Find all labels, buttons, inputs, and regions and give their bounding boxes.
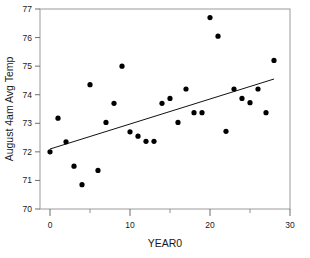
plot-canvas: 0102030 7071727374757677 YEAR0 August 4a… xyxy=(0,0,310,258)
data-point xyxy=(79,182,84,187)
x-axis-title: YEAR0 xyxy=(148,237,183,249)
data-point xyxy=(239,96,244,101)
data-point xyxy=(175,120,180,125)
y-axis-title: August 4am Avg Temp xyxy=(3,57,15,162)
scatter-plot-figure: 0102030 7071727374757677 YEAR0 August 4a… xyxy=(0,0,310,258)
y-axis-ticks xyxy=(35,9,40,209)
y-tick-label: 70 xyxy=(23,204,33,214)
data-point xyxy=(223,129,228,134)
x-tick-label: 10 xyxy=(125,220,135,230)
y-tick-label: 77 xyxy=(23,4,33,14)
y-tick-label: 75 xyxy=(23,61,33,71)
data-point xyxy=(87,82,92,87)
x-axis-tick-labels: 0102030 xyxy=(48,220,295,230)
data-point xyxy=(71,164,76,169)
data-point xyxy=(151,139,156,144)
data-point xyxy=(191,110,196,115)
data-point xyxy=(127,129,132,134)
data-point xyxy=(135,134,140,139)
data-point xyxy=(55,116,60,121)
data-point xyxy=(47,149,52,154)
y-tick-label: 74 xyxy=(23,90,33,100)
y-tick-label: 71 xyxy=(23,175,33,185)
y-tick-label: 73 xyxy=(23,118,33,128)
data-point xyxy=(231,86,236,91)
y-tick-label: 76 xyxy=(23,33,33,43)
data-point xyxy=(271,58,276,63)
data-point xyxy=(263,110,268,115)
data-point xyxy=(111,101,116,106)
data-point xyxy=(159,101,164,106)
data-points xyxy=(47,15,276,187)
fit-line-segment xyxy=(50,79,274,149)
data-point xyxy=(247,100,252,105)
regression-line xyxy=(50,79,274,149)
data-point xyxy=(183,86,188,91)
data-point xyxy=(95,168,100,173)
data-point xyxy=(207,15,212,20)
data-point xyxy=(119,64,124,69)
plot-frame xyxy=(40,9,290,209)
x-axis-ticks xyxy=(50,209,290,216)
data-point xyxy=(199,110,204,115)
data-point xyxy=(103,120,108,125)
data-point xyxy=(255,86,260,91)
data-point xyxy=(63,139,68,144)
y-axis-tick-labels: 7071727374757677 xyxy=(23,4,33,214)
x-tick-label: 0 xyxy=(48,220,53,230)
x-tick-label: 20 xyxy=(205,220,215,230)
y-tick-label: 72 xyxy=(23,147,33,157)
x-tick-label: 30 xyxy=(285,220,295,230)
data-point xyxy=(215,34,220,39)
data-point xyxy=(143,139,148,144)
data-point xyxy=(167,96,172,101)
